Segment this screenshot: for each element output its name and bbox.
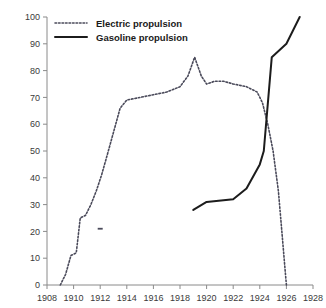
y-tick-group: 0102030405060708090100: [25, 12, 47, 290]
legend-label-electric: Electric propulsion: [96, 18, 182, 29]
x-tick-label: 1916: [143, 293, 163, 303]
y-tick-label: 20: [30, 227, 40, 237]
x-tick-label: 1912: [90, 293, 110, 303]
y-tick-label: 0: [35, 280, 40, 290]
x-tick-label: 1910: [64, 293, 84, 303]
x-tick-label: 1908: [37, 293, 57, 303]
y-tick-label: 70: [30, 93, 40, 103]
x-tick-label: 1926: [276, 293, 296, 303]
x-tick-label: 1928: [303, 293, 323, 303]
x-tick-label: 1922: [223, 293, 243, 303]
y-tick-label: 30: [30, 200, 40, 210]
x-tick-group: 1908191019121914191619181920192219241926…: [37, 285, 323, 303]
x-tick-label: 1914: [117, 293, 137, 303]
x-tick-label: 1920: [197, 293, 217, 303]
y-tick-label: 40: [30, 173, 40, 183]
series-group: [60, 17, 299, 285]
y-tick-label: 90: [30, 39, 40, 49]
x-tick-label: 1918: [170, 293, 190, 303]
y-tick-label: 80: [30, 66, 40, 76]
chart-canvas: 0102030405060708090100 19081910191219141…: [0, 0, 326, 308]
y-axis: 0102030405060708090100: [25, 12, 47, 290]
y-tick-label: 100: [25, 12, 40, 22]
legend: Electric propulsion Gasoline propulsion: [55, 18, 188, 43]
y-tick-label: 60: [30, 119, 40, 129]
series-line-electric-propulsion: [60, 57, 286, 285]
line-chart: 0102030405060708090100 19081910191219141…: [0, 0, 326, 308]
y-tick-label: 10: [30, 253, 40, 263]
x-tick-label: 1924: [250, 293, 270, 303]
legend-label-gasoline: Gasoline propulsion: [96, 32, 188, 43]
series-line-gasoline-propulsion: [193, 17, 299, 210]
x-axis: 1908191019121914191619181920192219241926…: [37, 285, 323, 303]
y-tick-label: 50: [30, 146, 40, 156]
